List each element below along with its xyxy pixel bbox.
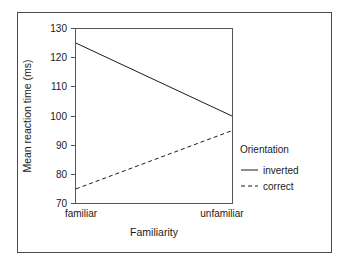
y-tick-label-120: 120: [50, 52, 67, 63]
y-axis-tick-labels: 130 120 110 100 90 80 70: [50, 23, 67, 209]
x-tick-label-familiar: familiar: [65, 208, 98, 219]
plot-panel-border: [76, 29, 233, 204]
y-axis-ticks: [71, 29, 76, 204]
x-tick-label-unfamiliar: unfamiliar: [200, 208, 244, 219]
series-line-inverted: [76, 43, 232, 116]
legend-title: Orientation: [240, 144, 289, 155]
series-line-correct: [76, 131, 232, 189]
legend-item-inverted[interactable]: inverted: [241, 165, 299, 176]
y-tick-label-130: 130: [50, 23, 67, 34]
y-tick-label-90: 90: [56, 140, 68, 151]
figure-root: 130 120 110 100 90 80 70 familiar unfami…: [0, 0, 348, 266]
y-tick-label-110: 110: [51, 81, 67, 92]
legend-label-inverted: inverted: [263, 165, 299, 176]
legend-label-correct: correct: [263, 181, 294, 192]
interaction-line-chart: 130 120 110 100 90 80 70 familiar unfami…: [0, 0, 348, 266]
legend: Orientation inverted correct: [240, 144, 299, 192]
x-axis-title: Familiarity: [130, 226, 179, 238]
y-tick-label-80: 80: [56, 169, 68, 180]
y-tick-label-100: 100: [50, 111, 67, 122]
y-axis-title: Mean reaction time (ms): [21, 59, 33, 172]
legend-item-correct[interactable]: correct: [241, 181, 294, 192]
x-axis-tick-labels: familiar unfamiliar: [65, 208, 244, 219]
data-series-group: [76, 43, 232, 189]
